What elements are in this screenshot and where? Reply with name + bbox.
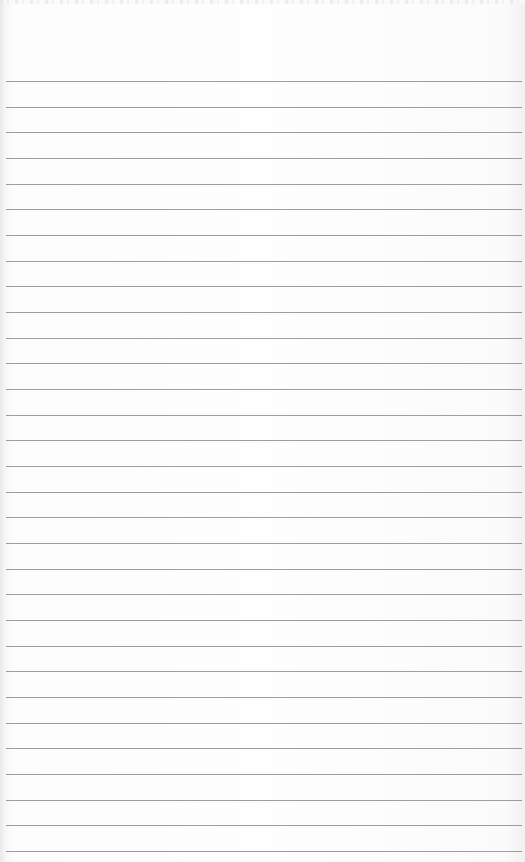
ruled-line [6, 671, 522, 672]
torn-top-edge [0, 0, 525, 4]
ruled-line [6, 184, 522, 185]
ruled-line [6, 415, 522, 416]
ruled-line [6, 723, 522, 724]
ruled-line [6, 569, 522, 570]
ruled-line [6, 158, 522, 159]
ruled-line [6, 800, 522, 801]
ruled-line [6, 286, 522, 287]
ruled-line [6, 312, 522, 313]
ruled-line [6, 209, 522, 210]
ruled-line [6, 825, 522, 826]
ruled-line [6, 466, 522, 467]
ruled-line [6, 107, 522, 108]
ruled-line [6, 261, 522, 262]
ruled-line [6, 132, 522, 133]
ruled-line [6, 338, 522, 339]
ruled-line [6, 851, 522, 852]
ruled-line [6, 646, 522, 647]
ruled-line [6, 517, 522, 518]
ruled-line [6, 440, 522, 441]
ruled-line [6, 748, 522, 749]
ruled-line [6, 235, 522, 236]
ruled-line [6, 363, 522, 364]
ruled-line [6, 697, 522, 698]
ruled-line [6, 389, 522, 390]
ruled-line [6, 620, 522, 621]
ruled-paper-sheet [0, 0, 525, 862]
ruled-line [6, 543, 522, 544]
ruled-line [6, 81, 522, 82]
ruled-line [6, 774, 522, 775]
ruled-line [6, 492, 522, 493]
ruled-line [6, 594, 522, 595]
